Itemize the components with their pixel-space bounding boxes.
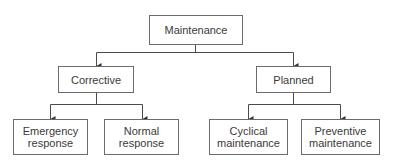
node-normal-response: Normal response	[104, 119, 179, 155]
node-label-line2: maintenance	[309, 137, 372, 149]
node-label: Corrective	[71, 74, 121, 86]
node-planned: Planned	[256, 66, 331, 93]
node-label-line1: Normal	[124, 125, 159, 137]
node-corrective: Corrective	[58, 66, 134, 93]
node-label-line2: response	[28, 137, 73, 149]
node-label: Planned	[273, 74, 313, 86]
node-cyclical-maintenance: Cyclical maintenance	[209, 119, 288, 155]
node-label-line1: Cyclical	[230, 125, 268, 137]
node-preventive-maintenance: Preventive maintenance	[301, 119, 380, 155]
node-maintenance: Maintenance	[149, 15, 243, 45]
node-label-line1: Preventive	[315, 125, 367, 137]
node-label-line2: maintenance	[217, 137, 280, 149]
node-emergency-response: Emergency response	[13, 119, 88, 155]
node-label: Maintenance	[165, 24, 228, 36]
node-label-line2: response	[119, 137, 164, 149]
node-label-line1: Emergency	[23, 125, 79, 137]
